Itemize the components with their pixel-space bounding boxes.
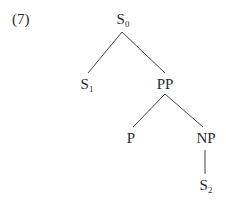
node-s0: S0 (117, 12, 130, 29)
node-np: NP (196, 131, 215, 146)
node-s2: S2 (200, 178, 213, 195)
edge-pp-np (165, 94, 203, 127)
node-s1: S1 (81, 77, 94, 94)
tree-edges (0, 0, 226, 201)
node-p-label: P (127, 130, 135, 146)
node-s2-sub: 2 (208, 185, 213, 195)
edge-s0-s1 (88, 32, 122, 73)
node-pp: PP (157, 77, 174, 92)
node-pp-label: PP (157, 76, 174, 92)
node-s0-sub: 0 (125, 19, 130, 29)
node-s1-sub: 1 (89, 84, 94, 94)
node-np-label: NP (196, 130, 215, 146)
node-p: P (127, 131, 135, 146)
edge-pp-p (133, 94, 165, 127)
edge-s0-pp (122, 32, 165, 73)
